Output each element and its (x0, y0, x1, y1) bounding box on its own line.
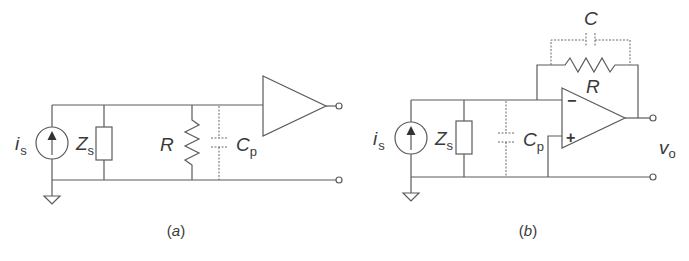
current-source-icon (36, 127, 68, 159)
label-zs-a: Zs (75, 133, 95, 158)
panel-a: is Zs R Cp (a) (15, 76, 342, 239)
label-vo: vo (659, 137, 676, 161)
panel-b: − + is Zs Cp C R vo (b) (373, 8, 676, 239)
current-source-icon (395, 122, 427, 154)
ground-icon (44, 196, 60, 204)
output-terminal-b (650, 115, 656, 121)
impedance-zs-icon (96, 105, 112, 180)
label-cp-a: Cp (236, 134, 257, 159)
output-terminal-a (336, 103, 342, 109)
label-source-a: is (15, 133, 27, 158)
ground-terminal-b (650, 174, 656, 180)
resistor-icon (185, 105, 199, 180)
caption-a: (a) (167, 222, 185, 239)
amplifier-icon (263, 76, 336, 136)
inverting-input-sign: − (567, 92, 576, 109)
feedback-capacitor-icon (551, 33, 630, 65)
label-cp-b: Cp (523, 129, 544, 154)
impedance-zs-icon (456, 100, 472, 177)
ground-icon (403, 193, 419, 201)
ground-terminal-a (336, 177, 342, 183)
noninverting-input-sign: + (566, 129, 575, 146)
opamp-icon (548, 88, 650, 177)
label-zs-b: Zs (434, 128, 454, 153)
circuit-diagram: is Zs R Cp (a) (0, 0, 689, 261)
label-source-b: is (373, 128, 385, 153)
parasitic-capacitor-icon (211, 106, 227, 180)
caption-b: (b) (519, 222, 537, 239)
label-feedback-r: R (586, 76, 600, 97)
label-r-a: R (160, 134, 174, 155)
parasitic-capacitor-icon (498, 101, 514, 177)
label-feedback-c: C (584, 8, 598, 29)
